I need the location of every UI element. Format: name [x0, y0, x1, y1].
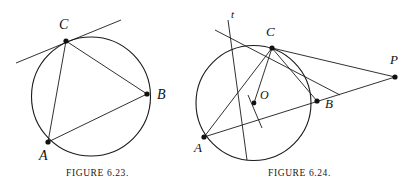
point-A-dot: [45, 139, 50, 144]
chord-CA: [48, 41, 66, 142]
line-t: [228, 20, 247, 160]
point-C-label: C: [59, 17, 69, 32]
point-P-dot: [392, 74, 397, 79]
figure-6-24: C O B A P t FIGURE 6.24.: [190, 0, 409, 189]
point-A-dot: [201, 134, 206, 139]
point-B-label: B: [325, 96, 333, 111]
chord-CB: [66, 41, 147, 94]
circle-outline: [32, 37, 151, 156]
chord-AB: [48, 94, 147, 142]
line-t-label: t: [231, 8, 235, 20]
point-A-label: A: [38, 148, 48, 163]
figure-page: C B A FIGURE 6.23.: [0, 0, 409, 189]
point-B-dot: [314, 98, 319, 103]
point-P-label: P: [389, 52, 398, 67]
secant-AP: [204, 77, 395, 137]
point-C-dot: [63, 38, 68, 43]
figure-6-24-drawing: C O B A P t: [190, 0, 409, 166]
figure-6-23: C B A FIGURE 6.23.: [0, 0, 195, 189]
figure-6-23-caption: FIGURE 6.23.: [0, 168, 195, 178]
figure-6-23-drawing: C B A: [0, 0, 195, 166]
tangent-CP: [272, 48, 395, 77]
point-O-label: O: [260, 88, 269, 102]
point-C-dot: [269, 45, 274, 50]
point-B-dot: [144, 91, 149, 96]
figure-6-24-caption: FIGURE 6.24.: [190, 168, 409, 178]
chord-CB: [272, 48, 317, 101]
point-B-label: B: [157, 87, 166, 102]
point-A-label: A: [193, 140, 202, 155]
point-C-label: C: [266, 24, 275, 39]
point-O-dot: [252, 101, 257, 106]
